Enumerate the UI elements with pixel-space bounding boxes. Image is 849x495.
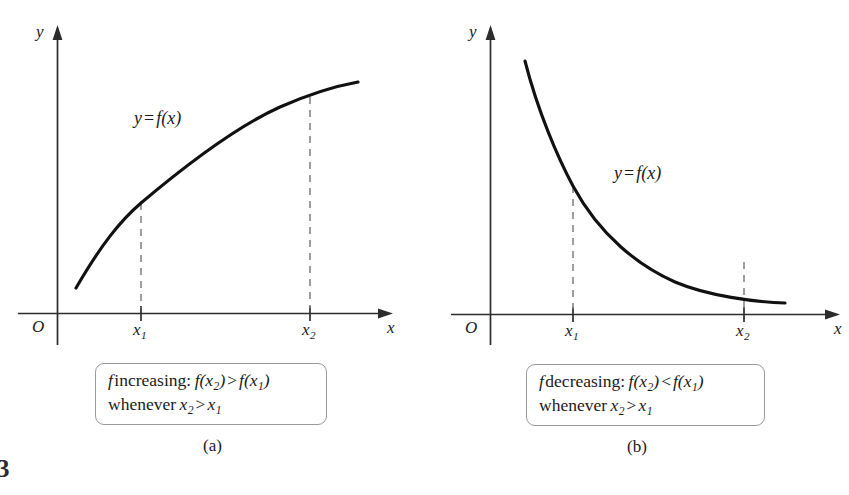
note-a-right: f(x [239, 370, 257, 390]
panel-decreasing: y x O x1 x2 y=f(x) f decreasing: f(x2)<f… [425, 0, 849, 495]
curve-label-b: y=f(x) [614, 163, 661, 184]
tick-x1-base-a: x [133, 320, 141, 339]
figure-number-mark: 3 [0, 455, 10, 483]
y-axis-b [486, 25, 496, 345]
curve-label-b-lhs: y [614, 163, 622, 183]
y-axis-label-a: y [36, 22, 44, 42]
curve-label-a: y=f(x) [134, 108, 181, 129]
note-b-word2: whenever [539, 395, 607, 415]
origin-label-a: O [32, 317, 44, 337]
tick-label-x1-a: x1 [133, 320, 147, 341]
note-a2-relation: > [196, 394, 206, 414]
note-a-word2: whenever [108, 394, 176, 414]
note-a-relation: > [227, 370, 237, 390]
tick-label-x2-b: x2 [736, 321, 750, 342]
note-a2-right: x [207, 394, 215, 414]
tick-label-x1-b: x1 [565, 321, 579, 342]
tick-x2-base-a: x [302, 320, 310, 339]
x-axis-a [18, 308, 393, 318]
note-box-decreasing: f decreasing: f(x2)<f(x1) whenever x2>x1 [526, 364, 765, 426]
note-a-left-close: ) [219, 370, 225, 390]
tick-x2-sub-a: 2 [310, 329, 316, 341]
note-line-2-a: whenever x2>x1 [108, 394, 315, 417]
origin-label-b: O [465, 318, 477, 338]
note-a-left: f(x [195, 370, 213, 390]
figure-root: y x O x1 x2 y=f(x) f increasing: f(x2)>f… [0, 0, 849, 495]
curve-increasing [76, 82, 358, 288]
x-axis-label-b: x [834, 319, 842, 339]
curve-label-a-rhs: f(x) [156, 108, 181, 128]
x-axis-b [451, 309, 840, 319]
note-a2-left: x [180, 394, 188, 414]
note-line-1-a: f increasing: f(x2)>f(x1) [108, 370, 315, 393]
x-axis-label-a: x [387, 318, 395, 338]
note-b-right: f(x [673, 371, 691, 391]
note-b2-relation: > [627, 395, 637, 415]
note-line-1-b: f decreasing: f(x2)<f(x1) [539, 371, 753, 394]
note-a-word: increasing: [114, 370, 191, 390]
tick-x2-base-b: x [736, 321, 744, 340]
note-b-left-close: ) [653, 371, 659, 391]
y-axis-a [53, 25, 63, 345]
tick-label-x2-a: x2 [302, 320, 316, 341]
y-axis-label-b: y [469, 22, 477, 42]
note-b2-right: x [638, 395, 646, 415]
tick-x1-base-b: x [565, 321, 573, 340]
note-b-left: f(x [629, 371, 647, 391]
note-b-right-close: ) [698, 371, 704, 391]
panel-caption-a: (a) [0, 436, 425, 456]
note-a2-left-sub: 2 [188, 404, 194, 416]
note-b2-right-sub: 1 [647, 405, 653, 417]
note-a-right-close: ) [264, 370, 270, 390]
panel-caption-b: (b) [425, 437, 849, 457]
curve-label-a-op: = [144, 108, 154, 128]
note-b-word: decreasing: [545, 371, 625, 391]
curve-label-b-op: = [624, 163, 634, 183]
note-a2-right-sub: 1 [216, 404, 222, 416]
note-box-increasing: f increasing: f(x2)>f(x1) whenever x2>x1 [95, 363, 327, 425]
tick-x1-sub-b: 1 [573, 330, 579, 342]
note-b2-left: x [611, 395, 619, 415]
panel-increasing: y x O x1 x2 y=f(x) f increasing: f(x2)>f… [0, 0, 425, 495]
note-line-2-b: whenever x2>x1 [539, 395, 753, 418]
tick-x1-sub-a: 1 [141, 329, 147, 341]
curve-label-a-lhs: y [134, 108, 142, 128]
note-b2-left-sub: 2 [619, 405, 625, 417]
note-b-relation: < [661, 371, 671, 391]
curve-label-b-rhs: f(x) [636, 163, 661, 183]
tick-x2-sub-b: 2 [744, 330, 750, 342]
